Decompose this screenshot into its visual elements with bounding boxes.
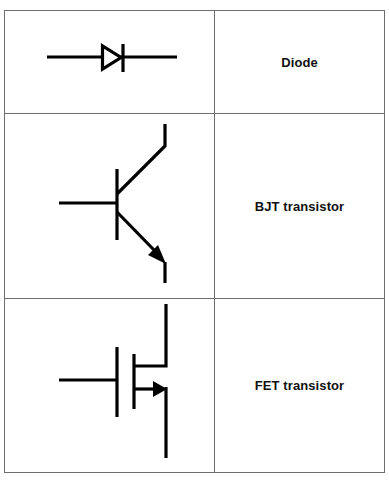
bjt-collector-lead	[117, 124, 165, 194]
diode-anode-triangle	[103, 46, 122, 69]
label-bjt: BJT transistor	[215, 114, 385, 299]
bjt-transistor-symbol-icon	[5, 114, 214, 299]
table-row-fet: FET transistor	[5, 299, 385, 473]
component-symbol-table: Diode BJT transistor	[4, 10, 385, 473]
bjt-emitter-lead	[117, 212, 155, 251]
fet-drain-lead	[134, 304, 166, 366]
diode-symbol-icon	[5, 11, 214, 114]
table-row-diode: Diode	[5, 11, 385, 114]
table-row-bjt: BJT transistor	[5, 114, 385, 299]
label-diode: Diode	[215, 11, 385, 114]
symbol-cell-fet	[5, 299, 215, 473]
symbol-cell-bjt	[5, 114, 215, 299]
clipped-heading	[0, 0, 389, 7]
label-fet: FET transistor	[215, 299, 385, 473]
symbol-cell-diode	[5, 11, 215, 114]
fet-transistor-symbol-icon	[5, 299, 214, 473]
